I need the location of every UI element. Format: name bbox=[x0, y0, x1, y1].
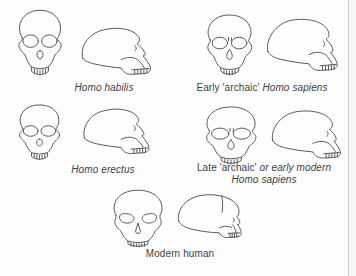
page-edge-line bbox=[348, 0, 349, 276]
species-label: Modern human bbox=[100, 248, 260, 260]
skull-front-view-icon bbox=[201, 13, 258, 76]
species-group-late-archaic-or-early-modern-homo-sapiens: Late 'archaic' or early modern Homo sapi… bbox=[190, 100, 356, 192]
skull-comparison-diagram: Homo habilis Early 'archaic' Homo sapien… bbox=[0, 0, 356, 276]
species-label-part: or early modern bbox=[260, 162, 332, 173]
species-label-line: Homo sapiens bbox=[181, 174, 347, 186]
species-label-part: Modern human bbox=[146, 248, 214, 259]
skull-side-view-icon bbox=[263, 15, 347, 78]
skull-side-view-icon bbox=[78, 23, 160, 80]
skull-front-view-icon bbox=[107, 189, 169, 247]
species-group-homo-erectus: Homo erectus bbox=[10, 100, 162, 192]
skull-side-view-icon bbox=[268, 107, 350, 165]
skull-side-view-icon bbox=[80, 104, 158, 159]
species-group-modern-human: Modern human bbox=[100, 186, 260, 270]
species-group-homo-habilis: Homo habilis bbox=[10, 6, 162, 96]
page-edge-strip bbox=[349, 0, 356, 276]
species-label-part: Early 'archaic' bbox=[196, 82, 262, 93]
species-label-line: Late 'archaic' or early modern bbox=[181, 162, 347, 174]
species-label: Homo erectus bbox=[38, 164, 168, 176]
species-label-part: Homo habilis bbox=[74, 82, 133, 93]
species-label-part: Late 'archaic' bbox=[197, 162, 260, 173]
species-label-part: Homo sapiens bbox=[231, 174, 296, 185]
species-label: Early 'archaic' Homo sapiens bbox=[183, 82, 341, 94]
skull-side-view-icon bbox=[172, 191, 253, 244]
skull-front-view-icon bbox=[199, 105, 263, 165]
species-label-part: Homo erectus bbox=[71, 164, 134, 175]
species-group-early-archaic-homo-sapiens: Early 'archaic' Homo sapiens bbox=[192, 6, 350, 96]
skull-front-view-icon bbox=[13, 103, 66, 163]
species-label-part: Homo sapiens bbox=[262, 82, 327, 93]
species-label: Homo habilis bbox=[28, 82, 180, 94]
skull-front-view-icon bbox=[12, 8, 68, 79]
species-label: Late 'archaic' or early modern Homo sapi… bbox=[181, 162, 347, 186]
